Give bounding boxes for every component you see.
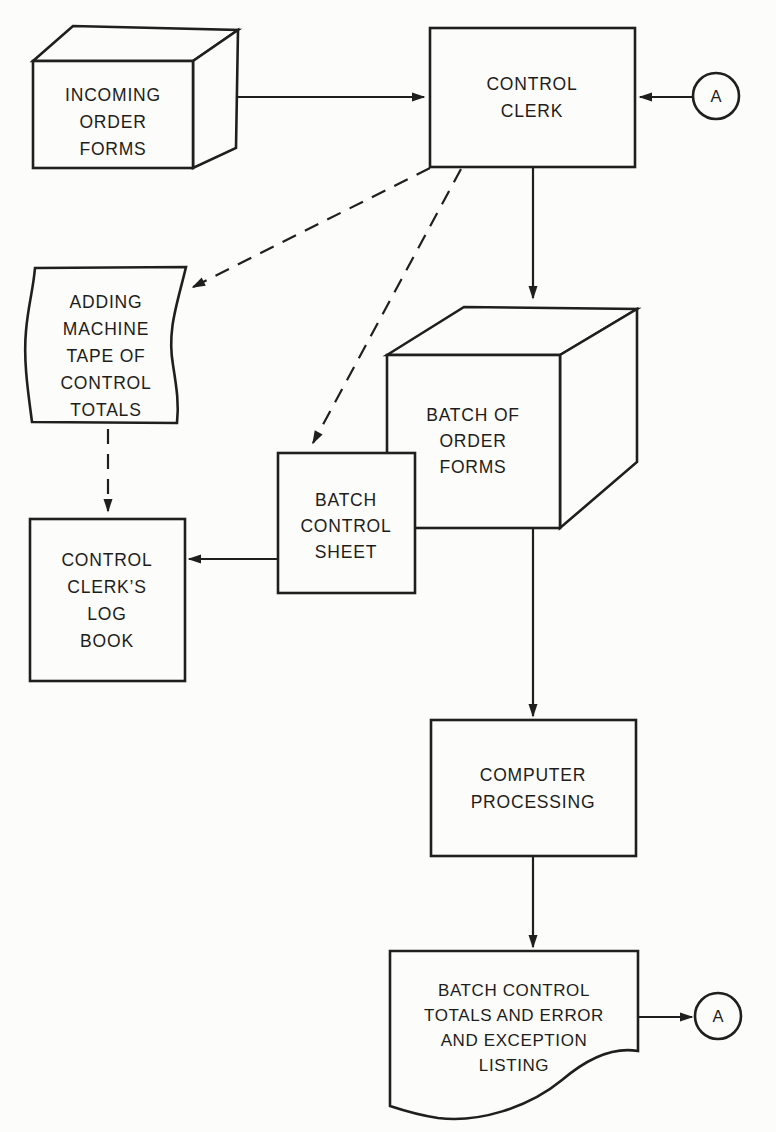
node-label-line: CLERK xyxy=(501,101,563,121)
node-label-line: CLERK’S xyxy=(67,577,147,597)
node-connector-a-top: A xyxy=(693,73,739,119)
node-label-line: FORMS xyxy=(79,139,146,159)
node-label-line: CONTROL xyxy=(300,516,391,536)
node-incoming-order-forms: INCOMING ORDER FORMS xyxy=(33,26,238,168)
node-control-clerks-log-book: CONTROL CLERK’S LOG BOOK xyxy=(30,519,185,681)
node-label-line: BATCH OF xyxy=(426,405,520,425)
node-label-line: TAPE OF xyxy=(66,346,145,366)
node-label-line: LISTING xyxy=(479,1056,549,1075)
node-label-line: CONTROL xyxy=(486,74,577,94)
node-label-line: LOG xyxy=(87,604,126,624)
node-label-line: CONTROL xyxy=(61,550,152,570)
node-label-line: SHEET xyxy=(315,542,377,562)
node-computer-processing: COMPUTER PROCESSING xyxy=(431,720,636,856)
node-label-line: ORDER xyxy=(439,431,506,451)
node-label-line: FORMS xyxy=(439,457,506,477)
flowchart-page: BATCH OF ORDER FORMS INCOMING ORDER FORM… xyxy=(0,0,776,1132)
node-label-line: BOOK xyxy=(80,631,134,651)
node-batch-of-order-forms: BATCH OF ORDER FORMS xyxy=(387,307,637,528)
process-rect xyxy=(430,28,635,167)
node-label-line: PROCESSING xyxy=(471,792,596,812)
node-label-line: MACHINE xyxy=(63,319,149,339)
node-label-line: AND EXCEPTION xyxy=(441,1031,588,1050)
process-rect xyxy=(431,720,636,856)
node-connector-a-bottom: A xyxy=(695,993,741,1039)
node-adding-machine-tape: ADDING MACHINE TAPE OF CONTROL TOTALS xyxy=(25,267,186,423)
node-label-line: INCOMING xyxy=(65,85,161,105)
logbook-rect xyxy=(30,519,185,681)
connector-label: A xyxy=(710,87,721,105)
connector-label: A xyxy=(712,1007,723,1025)
node-label-line: ADDING xyxy=(70,292,143,312)
node-label-line: ORDER xyxy=(79,112,146,132)
node-control-clerk: CONTROL CLERK xyxy=(430,28,635,167)
node-batch-control-sheet: BATCH CONTROL SHEET xyxy=(278,453,415,593)
node-label-line: TOTALS xyxy=(70,400,141,420)
node-label-line: BATCH CONTROL xyxy=(438,981,590,1000)
flowchart-diagram: BATCH OF ORDER FORMS INCOMING ORDER FORM… xyxy=(0,0,776,1132)
node-label-line: CONTROL xyxy=(60,373,151,393)
node-label-line: COMPUTER xyxy=(480,765,587,785)
edge-control-clerk-to-adding-machine-tape xyxy=(193,168,430,287)
node-batch-control-totals-listing: BATCH CONTROL TOTALS AND ERROR AND EXCEP… xyxy=(390,951,638,1119)
node-label-line: TOTALS AND ERROR xyxy=(424,1006,604,1025)
node-label-line: BATCH xyxy=(315,490,377,510)
